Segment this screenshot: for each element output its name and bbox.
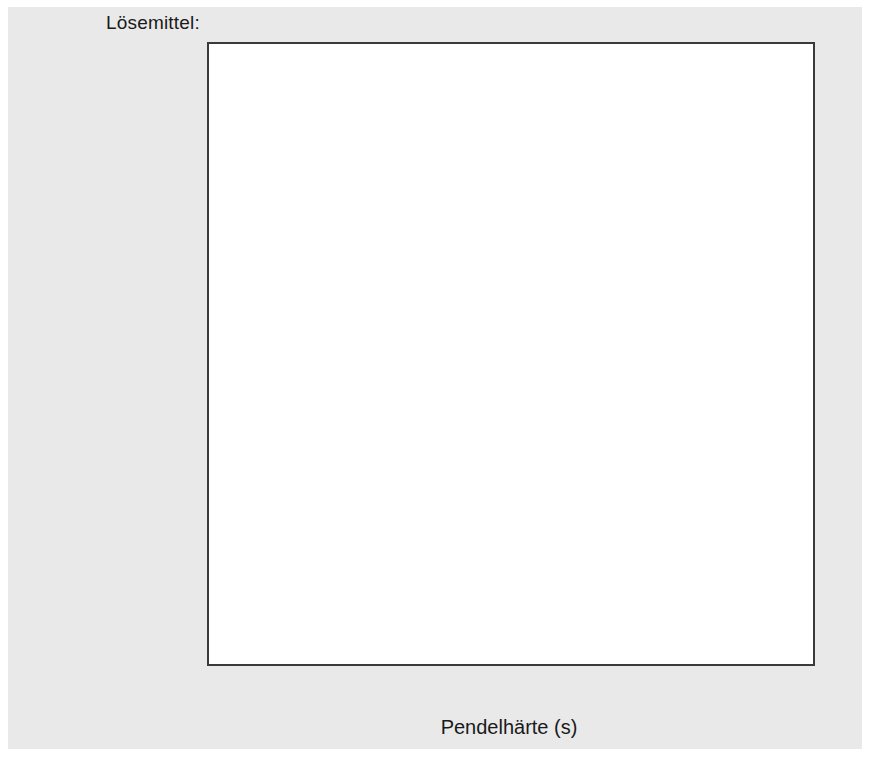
x-axis-title: Pendelhärte (s): [207, 716, 811, 739]
plot-area: [207, 42, 815, 666]
bars-container: [209, 44, 813, 664]
category-label-column: [0, 42, 200, 662]
x-axis: Pendelhärte (s): [207, 664, 811, 754]
category-axis-header: Lösemittel:: [0, 12, 200, 34]
figure-root: Lösemittel: Pendelhärte (s): [0, 0, 870, 757]
